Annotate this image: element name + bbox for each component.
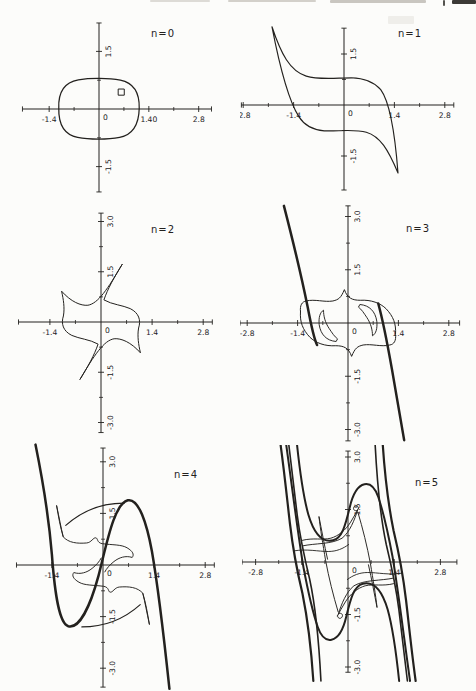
y-tick-label: 1.5	[353, 264, 362, 276]
y-tick-label: 1.5	[104, 45, 113, 57]
plot-n2: -1.41.42.83.01.5-1.5-3.00n=2	[18, 208, 238, 445]
origin-label: 0	[352, 327, 357, 336]
origin-label: 0	[348, 109, 353, 118]
dart-lower-needle	[319, 517, 338, 612]
header-smudge	[228, 0, 316, 2]
x-tick-label: -2.8	[240, 111, 251, 120]
y-tick-label: -3.0	[353, 422, 362, 437]
x-tick-label: -1.4	[42, 328, 57, 337]
x-tick-label: 1.4	[146, 328, 158, 337]
x-tick-label: 1.4	[392, 329, 404, 338]
stretched-s-curve	[35, 445, 169, 689]
y-tick-label: 3.0	[108, 456, 117, 468]
y-tick-label: 1.5	[106, 266, 115, 278]
fold-needle-lower	[143, 593, 150, 624]
panel-n4: -1.41.42.83.01.5-1.5-3.00n=4	[8, 442, 244, 691]
header-smudge	[150, 0, 210, 2]
y-tick-label: -1.5	[353, 369, 362, 384]
x-tick-label: 2.8	[199, 571, 211, 580]
envelope-bottom	[286, 445, 399, 681]
y-tick-label: 3.0	[353, 451, 362, 463]
page-header-remnant	[0, 0, 476, 8]
x-tick-label: -1.4	[286, 111, 301, 120]
y-tick-label: -1.5	[353, 607, 362, 622]
strand-left-outer	[280, 445, 313, 681]
header-separator-bar	[443, 0, 445, 6]
plot-n0: -1.41.402.81.5-1.50n=0	[20, 14, 236, 200]
strand-right-mid	[375, 445, 407, 681]
x-tick-label: 2.8	[439, 111, 451, 120]
strand-left-mid	[289, 445, 321, 681]
curves-n1	[272, 27, 398, 173]
y-tick-label: -1.5	[104, 159, 113, 174]
x-tick-label: -2.8	[248, 568, 263, 577]
panel-label-n0: n=0	[151, 28, 175, 39]
fold-hook-right	[359, 305, 377, 336]
y-tick-label: -1.5	[106, 365, 115, 380]
dart-upper-needle	[358, 512, 377, 607]
panel-label-n3: n=3	[406, 223, 430, 234]
header-page-number-fragment	[452, 0, 476, 4]
panel-n1: -2.8-1.41.42.81.5-1.50n=1	[240, 14, 476, 200]
panel-label-n5: n=5	[415, 477, 439, 488]
fold-band-upper	[63, 537, 133, 572]
y-tick-label: 3.0	[353, 210, 362, 222]
x-tick-label: 2.8	[443, 329, 455, 338]
y-tick-label: -3.0	[106, 415, 115, 430]
x-tick-label: -1.4	[290, 329, 305, 338]
seed-square-marker	[119, 89, 125, 95]
y-tick-label: -3.0	[108, 661, 117, 676]
envelope-top	[297, 445, 410, 681]
x-tick-label: -2.8	[240, 329, 255, 338]
plot-n4: -1.41.42.83.01.5-1.5-3.00n=4	[8, 442, 244, 691]
panel-n3: -2.8-1.41.42.83.01.5-1.5-3.00n=3	[240, 200, 476, 445]
y-tick-label: -3.0	[353, 659, 362, 674]
x-tick-label: 2.8	[193, 115, 205, 124]
figure-page: -1.41.402.81.5-1.50n=0-2.8-1.41.42.81.5-…	[0, 0, 476, 691]
panel-n2: -1.41.42.83.01.5-1.5-3.00n=2	[18, 208, 238, 445]
panel-label-n2: n=2	[151, 224, 175, 235]
x-tick-label: 2.8	[434, 568, 446, 577]
panel-label-n1: n=1	[398, 28, 422, 39]
plot-n3: -2.8-1.41.42.83.01.5-1.5-3.00n=3	[240, 200, 476, 445]
x-tick-label: -1.4	[44, 571, 59, 580]
x-tick-label: 2.8	[197, 328, 209, 337]
strand-right-outer	[383, 445, 416, 681]
fold-hook-left	[319, 310, 337, 341]
x-tick-label: -1.4	[42, 115, 57, 124]
x-tick-label: 1.40	[140, 115, 157, 124]
panel-label-n4: n=4	[174, 469, 198, 480]
curves-n4	[35, 445, 169, 689]
iterate-band	[272, 27, 398, 173]
y-tick-label: -1.5	[349, 148, 358, 163]
unstable-strand-right	[378, 303, 404, 440]
unstable-strand-left	[284, 206, 317, 345]
origin-label: 0	[103, 113, 108, 122]
fold-needle-upper	[57, 506, 64, 537]
panel-n5: -2.8-1.41.42.83.01.5-1.5-3.00n=5	[242, 445, 476, 691]
origin-label: 0	[107, 569, 112, 578]
header-smudge	[330, 0, 426, 3]
origin-label: 0	[105, 326, 110, 335]
y-tick-label: 3.0	[106, 215, 115, 227]
y-tick-label: 1.5	[349, 48, 358, 60]
panel-n0: -1.41.402.81.5-1.50n=0	[20, 14, 236, 200]
plot-n1: -2.8-1.41.42.81.5-1.50n=1	[240, 14, 476, 200]
origin-label: 0	[352, 566, 357, 575]
plot-n5: -2.8-1.41.42.83.01.5-1.5-3.00n=5	[242, 445, 476, 691]
